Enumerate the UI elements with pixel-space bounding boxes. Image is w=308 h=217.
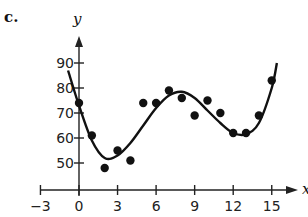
- x-tick-label: 15: [263, 198, 281, 214]
- y-tick-label: 60: [56, 130, 74, 146]
- y-tick-label: 50: [56, 155, 74, 171]
- x-axis-arrow-icon: [286, 186, 298, 194]
- data-point: [229, 129, 237, 137]
- data-point: [203, 96, 211, 104]
- y-axis-arrow-icon: [75, 36, 83, 47]
- data-point: [101, 164, 109, 172]
- x-axis-label: x: [302, 180, 308, 198]
- data-point: [190, 111, 198, 119]
- data-point: [126, 156, 134, 164]
- x-tick-label: −3: [30, 198, 51, 214]
- data-point: [88, 131, 96, 139]
- y-tick-label: 70: [56, 105, 74, 121]
- data-point: [152, 99, 160, 107]
- y-axis-label: y: [72, 10, 82, 28]
- data-point: [242, 129, 250, 137]
- x-tick-label: 12: [224, 198, 242, 214]
- data-point: [255, 111, 263, 119]
- x-tick-label: 3: [113, 198, 122, 214]
- scatter-plot: c. y x −303691215 5060708090: [0, 0, 308, 217]
- fitted-curve: [68, 63, 277, 159]
- y-tick-label: 90: [56, 55, 74, 71]
- x-tick-label: 9: [190, 198, 199, 214]
- data-point: [178, 94, 186, 102]
- data-point: [75, 99, 83, 107]
- y-ticks: 5060708090: [56, 55, 84, 171]
- data-point: [216, 109, 224, 117]
- data-point: [139, 99, 147, 107]
- data-point: [113, 146, 121, 154]
- data-point: [165, 86, 173, 94]
- x-tick-label: 6: [152, 198, 161, 214]
- data-point: [268, 76, 276, 84]
- panel-label: c.: [4, 8, 18, 26]
- x-tick-label: 0: [75, 198, 84, 214]
